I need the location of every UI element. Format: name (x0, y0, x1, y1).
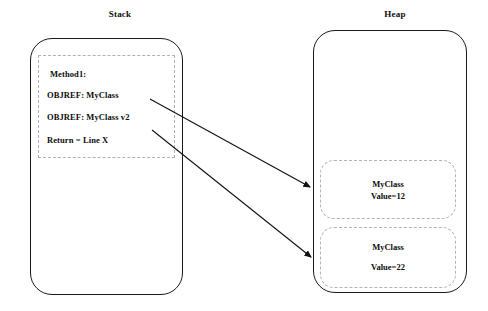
stack-line-objref-myclass-v2: OBJREF: MyClass v2 (47, 112, 130, 122)
stack-line-return: Return = Line X (47, 135, 108, 145)
heap-object-2-value: Value=22 (321, 262, 455, 272)
heap-object-myclass-2: MyClass Value=22 (320, 227, 456, 288)
heap-object-2-name: MyClass (321, 242, 455, 252)
heap-object-myclass-1: MyClass Value=12 (320, 160, 456, 219)
heap-title: Heap (355, 9, 435, 19)
diagram-canvas: Stack Heap Method1: OBJREF: MyClass OBJR… (0, 0, 488, 311)
stack-line-objref-myclass: OBJREF: MyClass (47, 90, 119, 100)
stack-title: Stack (80, 9, 160, 19)
stack-line-method1: Method1: (50, 69, 86, 79)
heap-object-1-value: Value=12 (321, 191, 455, 201)
heap-object-1-name: MyClass (321, 179, 455, 189)
